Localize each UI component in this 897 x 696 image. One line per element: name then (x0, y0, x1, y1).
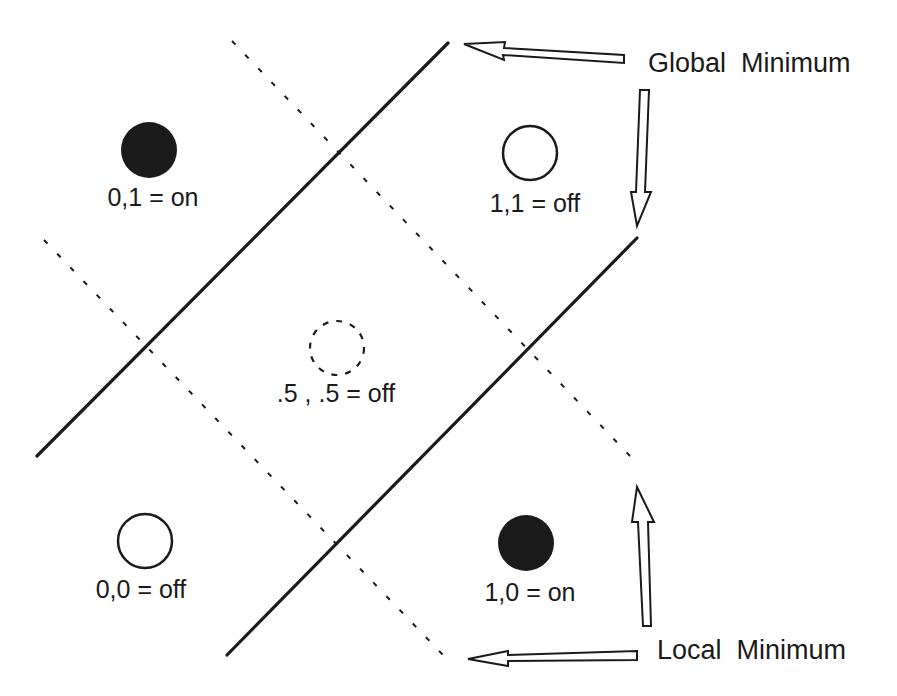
point-0-0-label: 0,0 = off (96, 575, 187, 603)
point-1-0-label: 1,0 = on (484, 578, 575, 606)
point-1-1-open-circle (503, 126, 557, 180)
local-minimum-left-arrow-icon (468, 651, 637, 666)
point-half-half-dashed-circle (310, 321, 364, 375)
point-1-1-label: 1,1 = off (490, 189, 581, 217)
point-1-0-filled-circle (498, 515, 554, 571)
point-0-1-filled-circle (121, 122, 177, 178)
local-minimum-label: Local Minimum (657, 635, 846, 665)
global-minimum-left-arrow-icon (464, 42, 624, 63)
local-minimum-up-arrow-icon (632, 487, 654, 626)
point-half-half-label: .5 , .5 = off (277, 379, 395, 407)
point-0-1-label: 0,1 = on (107, 183, 198, 211)
xor-diagram: 0,1 = on 1,1 = off .5 , .5 = off 0,0 = o… (0, 0, 897, 696)
global-minimum-down-arrow-icon (631, 90, 651, 226)
global-minimum-label: Global Minimum (648, 48, 851, 78)
point-0-0-open-circle (118, 514, 172, 568)
